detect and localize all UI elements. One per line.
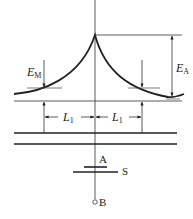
terminal-b-icon <box>93 200 97 204</box>
label-a: A <box>99 153 107 165</box>
diagram-canvas: EA EM L1 L1 A S B <box>0 0 193 219</box>
l1-left-label: L1 <box>62 110 74 125</box>
label-s: S <box>122 165 128 177</box>
ea-label: EA <box>175 61 189 76</box>
l1-right-label: L1 <box>111 110 123 125</box>
em-label: EM <box>26 65 41 80</box>
label-b: B <box>99 196 106 208</box>
